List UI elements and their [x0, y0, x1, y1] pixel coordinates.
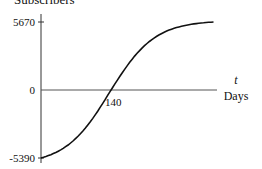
logistic-chart: Subscribers 5670 0 -5390 140 t Days — [0, 0, 262, 169]
x-variable-label: t — [234, 73, 238, 87]
y-tick-label-bottom: -5390 — [9, 152, 35, 164]
y-tick-label-top: 5670 — [13, 16, 36, 28]
y-tick-label-zero: 0 — [30, 84, 36, 96]
x-axis-title: Days — [224, 89, 249, 103]
x-intercept-label: 140 — [105, 96, 122, 108]
y-axis-title: Subscribers — [14, 0, 75, 7]
